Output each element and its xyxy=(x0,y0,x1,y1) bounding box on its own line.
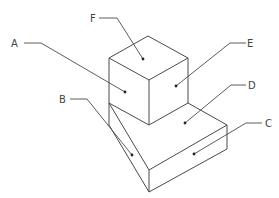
wedge-edge-outer xyxy=(109,125,149,192)
callout-dot-F xyxy=(142,58,145,61)
leader-line-F xyxy=(99,18,143,59)
callout-E: E xyxy=(175,38,254,87)
cube-left-face xyxy=(109,58,149,125)
cube-right-face xyxy=(149,58,188,125)
leader-line-D xyxy=(185,85,246,123)
callout-dot-E xyxy=(175,85,178,88)
callout-dot-B xyxy=(131,154,134,157)
slab-front-face xyxy=(149,125,227,192)
label-C: C xyxy=(265,118,272,129)
leader-line-A xyxy=(24,43,125,92)
callout-dot-D xyxy=(184,122,187,125)
label-A: A xyxy=(11,38,18,49)
cube-top-face xyxy=(109,36,188,80)
label-D: D xyxy=(248,80,256,91)
label-E: E xyxy=(247,38,253,49)
leader-line-B xyxy=(70,99,132,155)
part-diagram: A B C D E F xyxy=(0,0,279,198)
callout-D: D xyxy=(184,80,256,124)
callout-dot-C xyxy=(193,153,196,156)
callout-C: C xyxy=(193,118,272,155)
label-F: F xyxy=(90,13,96,24)
callout-dot-A xyxy=(124,91,127,94)
leader-line-E xyxy=(176,43,246,86)
label-B: B xyxy=(59,94,66,105)
